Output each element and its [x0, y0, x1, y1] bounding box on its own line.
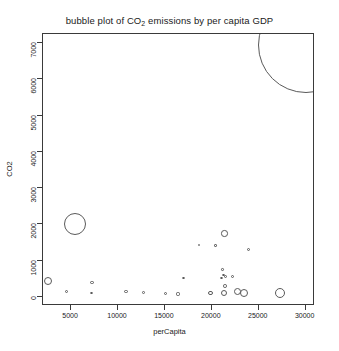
x-tick-mark — [70, 305, 71, 310]
bubble-point — [214, 244, 216, 246]
bubble-point — [231, 275, 234, 278]
bubble-point — [221, 230, 227, 236]
y-tick-label: 1000 — [31, 260, 38, 276]
chart-canvas: bubble plot of CO2 emissions by per capi… — [0, 0, 339, 351]
x-tick-mark — [305, 305, 306, 310]
bubble-point — [208, 291, 213, 296]
bubble-point — [142, 291, 145, 294]
y-tick-label: 5000 — [31, 115, 38, 131]
bubble-point — [221, 290, 227, 296]
y-tick-label: 3000 — [31, 187, 38, 203]
y-tick-mark — [37, 187, 42, 188]
bubble-point — [182, 277, 184, 279]
bubble-point — [220, 277, 223, 280]
bubble-point — [275, 288, 285, 298]
y-tick-mark — [37, 223, 42, 224]
y-tick-label: 2000 — [31, 223, 38, 239]
bubble-point — [176, 292, 179, 295]
x-tick-label: 10000 — [107, 312, 126, 319]
bubble-point — [258, 33, 314, 93]
y-tick-mark — [37, 42, 42, 43]
x-axis-title: perCapita — [0, 327, 339, 336]
x-tick-label: 20000 — [201, 312, 220, 319]
x-tick-mark — [164, 305, 165, 310]
y-tick-mark — [37, 260, 42, 261]
y-tick-label: 0 — [31, 296, 38, 300]
bubble-point — [247, 248, 250, 251]
y-tick-label: 4000 — [31, 151, 38, 167]
bubble-point — [90, 292, 93, 295]
y-tick-mark — [37, 296, 42, 297]
bubble-point — [164, 292, 167, 295]
bubble-point — [221, 268, 223, 270]
bubble-point — [124, 290, 127, 293]
x-tick-label: 30000 — [295, 312, 314, 319]
bubble-point — [224, 275, 227, 278]
y-tick-label: 7000 — [31, 42, 38, 58]
y-axis-title: CO2 — [5, 161, 14, 176]
y-tick-mark — [37, 78, 42, 79]
plot-frame — [42, 33, 314, 305]
y-tick-mark — [37, 151, 42, 152]
y-tick-label: 6000 — [31, 78, 38, 94]
bubble-point — [64, 213, 86, 235]
bubble-point — [65, 290, 68, 293]
bubble-point — [223, 284, 227, 288]
x-tick-mark — [211, 305, 212, 310]
bubble-point — [240, 289, 248, 297]
x-tick-mark — [258, 305, 259, 310]
x-tick-label: 25000 — [248, 312, 267, 319]
x-tick-label: 15000 — [154, 312, 173, 319]
chart-title: bubble plot of CO2 emissions by per capi… — [0, 15, 339, 27]
y-tick-mark — [37, 115, 42, 116]
bubble-point — [90, 281, 94, 285]
x-tick-label: 5000 — [62, 312, 78, 319]
x-tick-mark — [117, 305, 118, 310]
bubble-point — [44, 277, 52, 285]
bubble-layer — [43, 34, 314, 305]
bubble-point — [198, 244, 200, 246]
